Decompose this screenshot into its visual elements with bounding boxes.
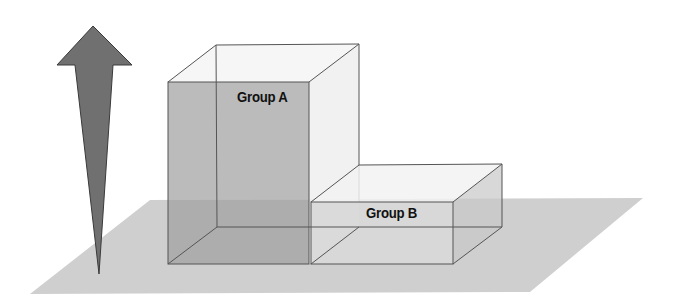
group-b-label: Group B bbox=[366, 204, 417, 221]
group-a-label: Group A bbox=[237, 88, 287, 105]
diagram-canvas: Group A Group B bbox=[0, 0, 674, 300]
